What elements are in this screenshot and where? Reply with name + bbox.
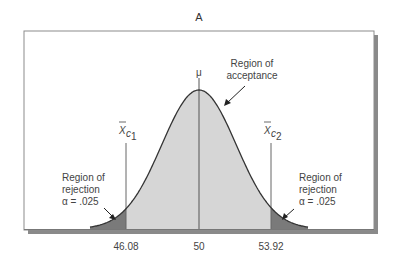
chart-title: A <box>195 11 203 23</box>
tick-left: 46.08 <box>113 241 138 252</box>
right-rejection-line2: rejection <box>299 184 337 195</box>
xc1-subsub: 1 <box>131 131 137 142</box>
left-rejection-line2: rejection <box>62 184 100 195</box>
right-rejection-line1: Region of <box>299 172 342 183</box>
right-rejection-line3: α = .025 <box>299 196 336 207</box>
mu-label: μ <box>196 67 202 78</box>
left-rejection-line1: Region of <box>62 172 105 183</box>
acceptance-label-line2: acceptance <box>226 70 278 81</box>
acceptance-label-line1: Region of <box>231 58 274 69</box>
xc2-main: X <box>263 125 271 136</box>
xc1-main: X <box>118 125 126 136</box>
tick-center: 50 <box>193 241 205 252</box>
tick-right: 53.92 <box>258 241 283 252</box>
normal-distribution-chart: A μ Region of acceptance X c 1 X c 2 Reg… <box>0 0 396 266</box>
xc2-subsub: 2 <box>276 131 282 142</box>
left-rejection-line3: α = .025 <box>62 196 99 207</box>
